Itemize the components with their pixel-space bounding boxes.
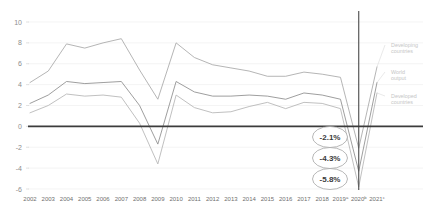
y-tick-label: -4: [16, 165, 22, 172]
legend-label-0: countries: [391, 48, 413, 54]
x-tick-label: 2002: [23, 196, 37, 202]
line-chart: 1086420-2-4-6 20022003200420052006200720…: [0, 0, 434, 217]
y-tick-label: 0: [18, 123, 22, 130]
y-tick-label: 2: [18, 102, 22, 109]
chart-container: 1086420-2-4-6 20022003200420052006200720…: [0, 0, 434, 217]
x-tick-label: 2021c: [369, 195, 384, 202]
annotation-label-1: -4.3%: [320, 154, 341, 163]
x-tick-label: 2005: [78, 196, 92, 202]
annotation-label-2: -5.8%: [320, 175, 341, 184]
x-tick-label: 2006: [96, 196, 110, 202]
legend-leader-2: [377, 93, 385, 96]
x-tick-label: 2016: [279, 196, 293, 202]
x-tick-label: 2004: [60, 196, 74, 202]
x-tick-label: 2013: [224, 196, 238, 202]
y-tick-label: 4: [18, 81, 22, 88]
x-tick-label: 2017: [297, 196, 311, 202]
x-tick-label: 2012: [206, 196, 220, 202]
y-tick-label: -2: [16, 144, 22, 151]
legend-leader-lines: [377, 45, 385, 96]
legend-label-2: countries: [391, 99, 413, 105]
x-tick-label: 2008: [133, 196, 147, 202]
legend-label-1: output: [391, 75, 406, 81]
x-tick-label: 2020b: [351, 195, 367, 202]
x-tick-label: 2014: [242, 196, 256, 202]
x-tick-label: 2007: [115, 196, 129, 202]
legend-label-0: Developing: [391, 42, 418, 48]
legend-label-1: World: [391, 69, 405, 75]
y-tick-label: 10: [14, 19, 22, 26]
y-tick-label: 6: [18, 60, 22, 67]
x-tick-label: 2010: [169, 196, 183, 202]
annotation-label-0: -2.1%: [320, 133, 341, 142]
x-tick-label: 2003: [42, 196, 56, 202]
legend: DevelopingcountriesWorldoutputDevelopedc…: [391, 42, 418, 105]
legend-leader-1: [377, 72, 385, 83]
annotation-callouts: -2.1%-4.3%-5.8%: [313, 127, 348, 190]
y-axis-tick-labels: 1086420-2-4-6: [14, 19, 29, 193]
y-tick-label: -6: [16, 186, 22, 193]
y-tick-label: 8: [18, 39, 22, 46]
x-tick-label: 2018: [316, 196, 330, 202]
x-tick-label: 2015: [261, 196, 275, 202]
x-tick-label: 2011: [188, 196, 202, 202]
legend-label-2: Developed: [391, 93, 417, 99]
x-tick-label: 2009: [151, 196, 165, 202]
x-axis-tick-labels: 2002200320042005200620072008200920102011…: [23, 195, 384, 202]
x-tick-label: 2019a: [333, 195, 349, 202]
